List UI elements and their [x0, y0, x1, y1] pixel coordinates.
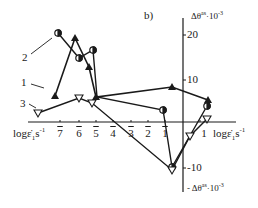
x-tick-minus-4: 4: [107, 128, 119, 139]
x-axis-label-left: logε̇1s-1: [13, 127, 45, 142]
x-tick-minus-7: 7: [54, 128, 66, 139]
y-axis-bottom-label: - Δθas·10-3: [187, 182, 224, 193]
x-tick-1: 1: [198, 128, 210, 139]
x-tick-minus-3: 3: [125, 128, 137, 139]
x-tick-minus-6: 6: [73, 128, 85, 139]
x-axis-label-right: logε̇1s-1: [213, 127, 245, 142]
series-label-3: 3: [20, 98, 26, 109]
series-label-1: 1: [21, 77, 27, 88]
x-tick-minus-1: 1: [159, 128, 171, 139]
y-tick-10: 10: [187, 74, 198, 85]
chart-canvas: [0, 0, 258, 208]
panel-label: b): [144, 10, 153, 21]
series-label-2: 2: [22, 52, 28, 63]
x-tick-minus-2: 2: [142, 128, 154, 139]
y-axis-top-label: Δθas·10-3: [191, 10, 223, 21]
y-tick-20: 20: [187, 29, 198, 40]
x-tick-minus-5: 5: [90, 128, 102, 139]
series-1-line: [55, 38, 208, 100]
y-tick-minus-10: -10: [187, 162, 202, 173]
